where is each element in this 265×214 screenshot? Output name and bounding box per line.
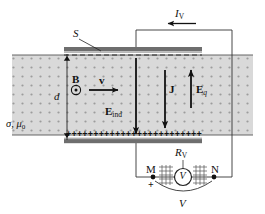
label-voltmeter-symbol: V: [180, 171, 186, 181]
terminal-node-n: [212, 175, 217, 180]
label-terminal-n: N: [211, 164, 219, 175]
label-rv-subscript: V: [182, 151, 187, 160]
label-medium-properties: σ, μ0: [6, 119, 25, 131]
label-polarity-plus: +: [148, 180, 154, 190]
label-e-charge-subscript: q: [203, 88, 207, 97]
conducting-slab: [12, 55, 253, 135]
top-electrode-plate: [64, 47, 202, 55]
label-e-induced: Eind: [105, 106, 122, 118]
positive-charge-row: +++++++++++++++++++++++++: [66, 129, 202, 139]
label-thickness-d: d: [54, 91, 60, 102]
label-e-charge: Eq: [196, 84, 207, 96]
physics-diagram: +++++++++++++++++++++++++ S d σ, μ0 B v …: [0, 0, 265, 214]
label-switch-s: S: [73, 28, 79, 39]
label-velocity: v: [99, 75, 105, 86]
label-voltmeter-current: IV: [175, 8, 184, 20]
label-current-density: J: [169, 84, 175, 95]
field-hatch-left: [159, 165, 173, 185]
positive-charge-symbol: +: [197, 129, 202, 139]
label-voltmeter-resistance: RV: [175, 147, 187, 159]
diagram-canvas: [0, 0, 265, 214]
field-hatch-right: [193, 165, 207, 185]
label-mu-subscript: 0: [22, 123, 26, 131]
label-comma: ,: [11, 118, 14, 129]
label-terminal-m: M: [146, 164, 156, 175]
label-b-field: B: [72, 74, 79, 85]
label-e-induced-subscript: ind: [112, 110, 122, 119]
label-iv-subscript: V: [179, 12, 184, 21]
label-rv-symbol: R: [175, 146, 182, 158]
label-voltage-v: V: [179, 198, 186, 209]
